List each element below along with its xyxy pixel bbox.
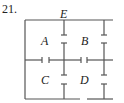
horizontal-middle-wire (25, 57, 113, 63)
capacitor-circuit-diagram (0, 0, 124, 103)
